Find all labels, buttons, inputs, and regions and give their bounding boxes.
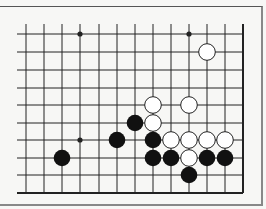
white-stone <box>217 132 234 149</box>
star-point <box>77 137 82 142</box>
stones <box>54 44 234 184</box>
black-stone <box>181 167 198 184</box>
white-stone <box>163 132 180 149</box>
black-stone <box>109 132 126 149</box>
star-point <box>77 31 82 36</box>
white-stone <box>181 150 198 167</box>
black-stone <box>54 150 71 167</box>
black-stone <box>199 150 216 167</box>
white-stone <box>145 97 162 114</box>
white-stone <box>145 115 162 132</box>
white-stone <box>181 97 198 114</box>
black-stone <box>145 150 162 167</box>
black-stone <box>127 115 144 132</box>
black-stone <box>145 132 162 149</box>
star-point <box>186 31 191 36</box>
go-board <box>0 0 266 209</box>
black-stone <box>217 150 234 167</box>
white-stone <box>199 132 216 149</box>
white-stone <box>181 132 198 149</box>
black-stone <box>163 150 180 167</box>
white-stone <box>199 44 216 61</box>
